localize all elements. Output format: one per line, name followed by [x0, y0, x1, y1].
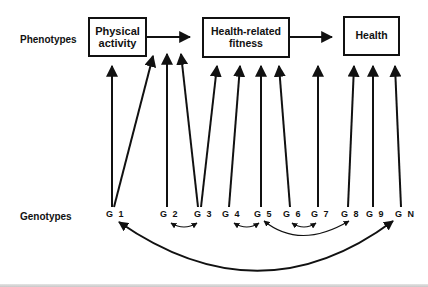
edge-g6-to-fitness [279, 66, 290, 207]
interaction-g6-g7 [292, 223, 316, 227]
edge-g3-to-fitness-b [201, 66, 217, 207]
genotype-g1: G 1 [106, 209, 125, 219]
genotype-g8: G 8 [341, 209, 360, 219]
diagram-edges [0, 0, 428, 287]
genotype-g5: G 5 [254, 209, 273, 219]
interaction-g1-gn [119, 221, 393, 271]
genotype-g7: G 7 [311, 209, 330, 219]
interaction-g2-g3 [171, 223, 197, 227]
edge-g8-to-health [348, 66, 354, 207]
edge-gn-to-health [395, 66, 401, 207]
edge-g3-to-fitness-a [181, 54, 198, 207]
interaction-g5-g8 [264, 221, 349, 236]
genotype-g4: G 4 [222, 209, 241, 219]
edge-g1-to-fitness [114, 56, 153, 207]
interaction-g4-g5 [234, 223, 259, 227]
genotype-gn: G N [395, 209, 416, 219]
genotype-g2: G 2 [160, 209, 179, 219]
genotype-g9: G 9 [366, 209, 385, 219]
genotype-g3: G 3 [194, 209, 213, 219]
genotype-g6: G 6 [283, 209, 302, 219]
edge-g4-to-fitness [229, 66, 240, 207]
